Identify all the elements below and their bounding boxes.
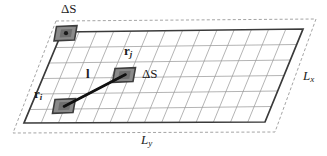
label-r-j: rj [124, 44, 132, 59]
label-r-j-subscript: j [130, 49, 132, 59]
label-L-y: Ly [141, 133, 152, 148]
surface-grid-diagram [0, 0, 327, 156]
separation-vector [64, 75, 126, 107]
label-r-i: ri [34, 87, 42, 102]
label-delta-s-middle: ΔS [142, 67, 158, 80]
area-element-center-dot [64, 31, 68, 35]
label-delta-s-top: ΔS [61, 2, 77, 15]
label-L-x-subscript: x [310, 74, 314, 84]
figure-root: ΔS ΔS rj ri l Lx Ly [0, 0, 327, 156]
area-element-top-left [54, 26, 77, 41]
label-L-y-subscript: y [148, 138, 152, 148]
label-l-vector: l [86, 67, 90, 80]
label-r-i-subscript: i [40, 92, 42, 102]
label-L-x: Lx [303, 69, 314, 84]
